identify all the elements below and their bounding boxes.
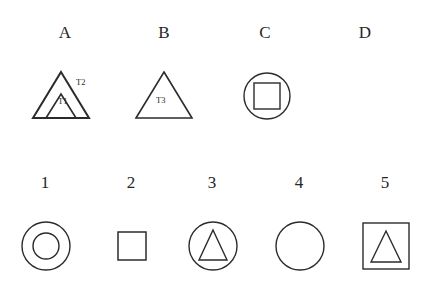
triangle-icon — [199, 230, 227, 260]
outer-circle-icon — [22, 222, 70, 270]
shape-3-triangle-in-circle — [185, 219, 241, 273]
shape-matching-figure: A B C D T2 T1 T3 1 2 3 4 5 — [0, 0, 426, 285]
annotation-t3: T3 — [156, 96, 165, 105]
bottom-row-label-1: 1 — [25, 174, 65, 191]
square-icon — [118, 232, 146, 260]
circle-icon — [244, 73, 290, 119]
bottom-row-label-4: 4 — [279, 174, 319, 191]
top-row-label-a: A — [45, 24, 85, 41]
square-icon — [254, 83, 280, 109]
bottom-row-label-3: 3 — [192, 174, 232, 191]
shape-c-square-in-circle — [240, 70, 294, 122]
top-row-label-d: D — [345, 24, 385, 41]
inner-circle-icon — [33, 233, 59, 259]
top-row-label-c: C — [245, 24, 285, 41]
shape-d-empty-slot — [340, 70, 394, 122]
shape-1-circle-in-circle — [18, 219, 74, 273]
bottom-row-label-5: 5 — [365, 174, 405, 191]
circle-icon — [276, 222, 324, 270]
bottom-row-label-2: 2 — [111, 174, 151, 191]
annotation-t2: T2 — [76, 78, 85, 87]
annotation-t1: T1 — [58, 97, 67, 106]
triangle-icon — [371, 231, 401, 262]
shape-4-circle — [272, 219, 328, 273]
shape-2-square — [104, 219, 160, 273]
top-row-label-b: B — [144, 24, 184, 41]
shape-5-triangle-in-square — [358, 219, 414, 273]
